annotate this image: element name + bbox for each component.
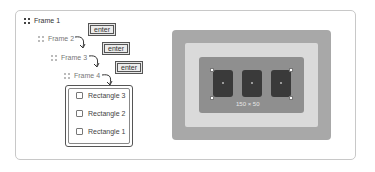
center-dot <box>251 82 253 84</box>
enter-button-1[interactable]: enter <box>88 23 116 36</box>
layer-label: Frame 4 <box>74 72 100 79</box>
selection-size-label: 150 × 50 <box>236 101 260 107</box>
center-dot <box>280 82 282 84</box>
enter-label: enter <box>90 25 114 34</box>
frame-grid-icon <box>38 36 44 42</box>
layer-frame-2[interactable]: Frame 2 <box>38 35 74 42</box>
frame-grid-icon <box>24 18 30 24</box>
frame-grid-icon <box>64 73 70 79</box>
selection-handle-bottom-right[interactable] <box>289 96 293 100</box>
rectangle-icon <box>76 110 83 117</box>
layer-rectangle-2[interactable]: Rectangle 2 <box>76 110 125 117</box>
frame-grid-icon <box>51 55 57 61</box>
enter-button-2[interactable]: enter <box>102 42 130 55</box>
rectangle-icon <box>76 92 83 99</box>
layer-label: Frame 3 <box>61 54 87 61</box>
center-dot <box>222 82 224 84</box>
layer-label: Rectangle 3 <box>88 92 125 99</box>
selection-handle-top-left[interactable] <box>210 68 214 72</box>
selection-handle-top-right[interactable] <box>289 68 293 72</box>
layer-label: Rectangle 2 <box>88 110 125 117</box>
layer-label: Rectangle 1 <box>88 128 125 135</box>
layer-rectangle-1[interactable]: Rectangle 1 <box>76 128 125 135</box>
canvas-rectangle-1[interactable] <box>213 70 233 97</box>
rectangle-icon <box>76 128 83 135</box>
enter-button-3[interactable]: enter <box>115 61 143 74</box>
curved-arrow-icon <box>88 54 104 70</box>
selection-handle-bottom-left[interactable] <box>210 96 214 100</box>
layer-label: Frame 2 <box>48 35 74 42</box>
enter-label: enter <box>117 63 141 72</box>
layer-label: Frame 1 <box>34 17 60 24</box>
layer-frame-4[interactable]: Frame 4 <box>64 72 100 79</box>
layer-rectangle-3[interactable]: Rectangle 3 <box>76 92 125 99</box>
canvas-rectangle-3[interactable] <box>271 70 291 97</box>
curved-arrow-icon <box>74 35 90 51</box>
enter-label: enter <box>104 44 128 53</box>
layer-frame-1[interactable]: Frame 1 <box>24 17 60 24</box>
canvas-rectangle-2[interactable] <box>242 70 262 97</box>
layer-frame-3[interactable]: Frame 3 <box>51 54 87 61</box>
